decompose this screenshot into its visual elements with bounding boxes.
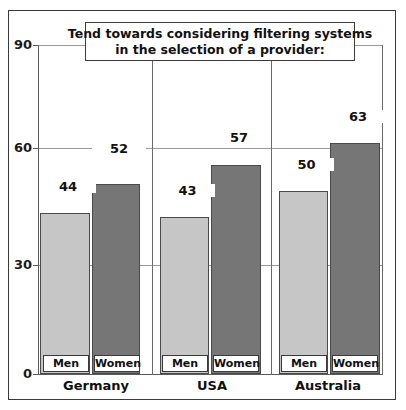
y-tick-label-90: 90	[0, 38, 32, 51]
value-label-germany-men: 44	[40, 180, 96, 193]
chart-title-box: Tend towards considering filtering syste…	[85, 22, 355, 61]
value-label-australia-women: 63	[330, 110, 386, 123]
legend-usa-men[interactable]: Men	[162, 355, 208, 372]
bar-australia-women[interactable]	[330, 143, 380, 374]
bar-australia-men[interactable]	[279, 191, 328, 374]
legend-australia-women[interactable]: Women	[332, 355, 378, 372]
bar-germany-men[interactable]	[40, 213, 90, 374]
value-label-australia-men: 50	[279, 158, 334, 171]
legend-germany-men[interactable]: Men	[43, 355, 89, 372]
y-tick-label-30: 30	[0, 258, 32, 271]
value-label-usa-men: 43	[160, 184, 215, 197]
value-label-usa-women: 57	[211, 131, 267, 144]
value-label-germany-women: 52	[92, 142, 146, 155]
legend-australia-men[interactable]: Men	[281, 355, 327, 372]
category-label-germany: Germany	[40, 379, 152, 392]
chart-title-line-2: in the selection of a provider:	[115, 42, 324, 58]
category-label-usa: USA	[155, 379, 269, 392]
chart-title-line-1: Tend towards considering filtering syste…	[68, 26, 372, 42]
chart-container: 90 60 30 0 44 52 43 57 50 63 Men Women M…	[0, 0, 406, 410]
x-axis-line	[38, 374, 383, 375]
y-tick-label-60: 60	[0, 141, 32, 154]
plot-right-boundary	[382, 45, 383, 375]
bar-usa-men[interactable]	[160, 217, 209, 374]
legend-usa-women[interactable]: Women	[213, 355, 259, 372]
category-label-australia: Australia	[273, 379, 383, 392]
legend-germany-women[interactable]: Women	[94, 355, 140, 372]
y-tick-label-0: 0	[0, 367, 32, 380]
bar-germany-women[interactable]	[92, 184, 140, 374]
bar-usa-women[interactable]	[211, 165, 261, 374]
bars-layer	[38, 45, 382, 374]
tick-mark-0	[33, 374, 39, 375]
